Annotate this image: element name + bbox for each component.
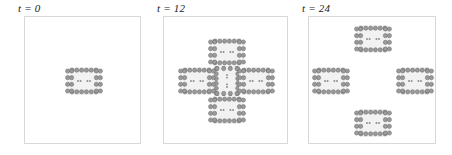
bead-ring-capsule [353, 23, 393, 55]
panel-label-t0: t = 0 [18, 2, 40, 14]
bead [242, 69, 246, 73]
bead [256, 90, 260, 94]
bead [212, 60, 216, 64]
capsule-unit [353, 23, 393, 55]
inner-dot [220, 51, 222, 53]
bead [89, 90, 93, 94]
bead [373, 110, 377, 114]
bead [355, 27, 359, 31]
bead [197, 68, 201, 72]
bead [327, 68, 331, 72]
bead [202, 90, 206, 94]
bead [98, 82, 102, 86]
bead [237, 60, 241, 64]
bead [359, 34, 363, 38]
bead [238, 69, 242, 73]
inner-dot [232, 51, 234, 53]
inner-dot [333, 80, 335, 82]
panel-plot-area-t0 [24, 16, 141, 144]
bead [345, 82, 349, 86]
bead [406, 90, 410, 94]
bead [197, 90, 201, 94]
bead [84, 90, 88, 94]
bead [355, 118, 359, 122]
bead [364, 48, 368, 52]
capsule-unit [236, 65, 276, 97]
bead [217, 97, 221, 101]
bead [355, 111, 359, 115]
bead [387, 47, 391, 51]
inner-dot [378, 122, 380, 124]
bead [378, 48, 382, 52]
inner-dot [366, 122, 368, 124]
capsule-unit [395, 65, 435, 97]
bead [232, 39, 236, 43]
bead [383, 47, 387, 51]
inner-dot [369, 38, 371, 40]
bead [327, 90, 331, 94]
inner-dot [249, 80, 251, 82]
inner-dot [375, 38, 377, 40]
bead [387, 124, 391, 128]
bead [74, 68, 78, 72]
panel-plot-area-t24 [308, 16, 436, 144]
bead [387, 131, 391, 135]
bead [238, 82, 242, 86]
inner-dot [336, 80, 338, 82]
bead [208, 60, 212, 64]
bead [208, 105, 212, 109]
bead [94, 69, 98, 73]
bead [406, 68, 410, 72]
bead [261, 68, 265, 72]
bead [242, 82, 246, 86]
bead [98, 76, 102, 80]
bead [222, 39, 226, 43]
bead [322, 68, 326, 72]
inner-dot [232, 109, 234, 111]
bead [341, 82, 345, 86]
bead [94, 76, 98, 80]
bead [397, 69, 401, 73]
bead [341, 76, 345, 80]
bead [420, 90, 424, 94]
capsule-unit [207, 36, 247, 68]
bead [211, 76, 215, 80]
bead [74, 90, 78, 94]
bead [378, 132, 382, 136]
bead [331, 68, 335, 72]
bead [401, 76, 405, 80]
inner-dot [378, 38, 380, 40]
panel-plot-area-t12 [163, 16, 288, 144]
bead [208, 111, 212, 115]
bead [359, 118, 363, 122]
bead [232, 119, 236, 123]
bead [211, 69, 215, 73]
bead [411, 68, 415, 72]
bead [331, 90, 335, 94]
bead [364, 26, 368, 30]
bead [79, 68, 83, 72]
bead [237, 118, 241, 122]
bead [420, 68, 424, 72]
bead [378, 26, 382, 30]
bead [387, 34, 391, 38]
bead [183, 89, 187, 93]
bead [364, 110, 368, 114]
bead [387, 118, 391, 122]
bead [378, 110, 382, 114]
bead [179, 76, 183, 80]
bead [383, 34, 387, 38]
inner-dot [252, 80, 254, 82]
bead [69, 82, 73, 86]
capsule-unit [207, 94, 247, 126]
bead [207, 89, 211, 93]
inner-dot [375, 122, 377, 124]
bead [211, 82, 215, 86]
bead [252, 90, 256, 94]
bead [397, 89, 401, 93]
bead [183, 76, 187, 80]
bead [345, 89, 349, 93]
bead [227, 97, 231, 101]
bead [241, 60, 245, 64]
bead [425, 89, 429, 93]
